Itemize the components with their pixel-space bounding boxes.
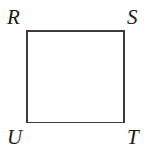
- vertex-label-u: U: [7, 127, 22, 148]
- geometry-figure: R S T U: [0, 0, 155, 153]
- square-outline: [27, 31, 124, 122]
- vertex-label-r: R: [7, 7, 20, 28]
- vertex-label-s: S: [127, 7, 138, 28]
- vertex-label-t: T: [127, 127, 139, 148]
